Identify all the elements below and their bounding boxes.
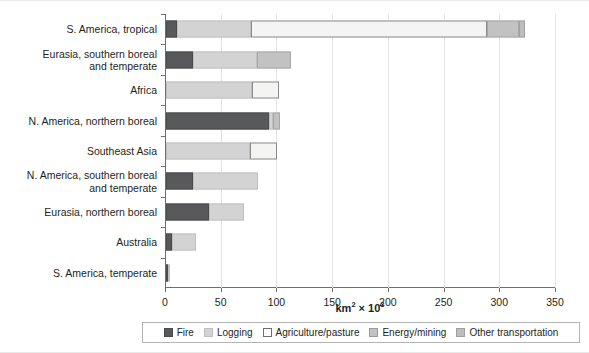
y-axis-tick [161,227,165,228]
swatch-fire-icon [164,328,173,337]
bar-segment-energy-mining[interactable] [487,21,519,38]
y-axis-tick [161,197,165,198]
legend-item[interactable]: Other transportation [456,327,558,338]
gridline [555,14,556,288]
bar-segment-logging[interactable] [193,173,259,190]
swatch-agriculture-icon [263,328,272,337]
bar-row[interactable]: Australia [165,227,555,257]
x-axis-title: km2 × 103 [165,300,555,314]
x-axis-title-mid: × 10 [356,302,381,314]
x-axis-tick [165,288,166,292]
stacked-bar[interactable] [166,82,279,99]
bar-segment-logging[interactable] [172,234,197,251]
bar-row[interactable]: Eurasia, southern borealand temperate [165,44,555,74]
legend-label: Energy/mining [382,327,446,338]
bar-segment-agriculture-pasture[interactable] [252,82,279,99]
bar-row[interactable]: Eurasia, northern boreal [165,197,555,227]
legend-label: Fire [177,327,194,338]
bar-segment-logging[interactable] [168,264,170,281]
bar-segment-fire[interactable] [166,112,269,129]
y-axis-tick [161,136,165,137]
bar-segment-logging[interactable] [166,142,250,159]
stacked-bar[interactable] [166,234,196,251]
y-axis-tick [161,105,165,106]
legend-label: Other transportation [469,327,558,338]
page-edge-top [0,0,589,1]
stacked-bar[interactable] [166,173,258,190]
bar-segment-logging[interactable] [193,51,258,68]
stacked-bar[interactable] [166,51,291,68]
bar-row[interactable]: Southeast Asia [165,136,555,166]
bar-row[interactable]: Africa [165,75,555,105]
chart-legend: FireLoggingAgriculture/pastureEnergy/min… [142,322,580,343]
y-axis-tick [161,258,165,259]
legend-item[interactable]: Logging [204,327,253,338]
x-axis-tick [221,288,222,292]
bar-row[interactable]: N. America, northern boreal [165,105,555,135]
legend-label: Agriculture/pasture [276,327,360,338]
y-axis-category-label: Australia [116,236,157,249]
swatch-logging-icon [204,328,213,337]
stacked-bar[interactable] [166,264,170,281]
y-axis-category-label: Africa [130,84,157,97]
stacked-bar[interactable] [166,21,525,38]
y-axis-category-label: Southeast Asia [87,145,157,158]
bar-segment-fire[interactable] [166,173,193,190]
swatch-transport-icon [456,328,465,337]
bar-segment-logging[interactable] [177,21,251,38]
y-axis-category-label: Eurasia, northern boreal [44,206,157,219]
y-axis-tick [161,14,165,15]
x-axis-title-exp-scale: 3 [380,300,384,309]
x-axis-tick [276,288,277,292]
bar-row[interactable]: S. America, temperate [165,258,555,288]
bar-segment-agriculture-pasture[interactable] [250,142,278,159]
y-axis-tick [161,166,165,167]
bar-row[interactable]: S. America, tropical [165,14,555,44]
y-axis-category-label: N. America, southern borealand temperate [27,169,157,194]
stacked-bar[interactable] [166,203,244,220]
stacked-bar[interactable] [166,112,280,129]
legend-item[interactable]: Fire [164,327,194,338]
bar-segment-energy-mining[interactable] [257,51,290,68]
swatch-energy-icon [369,328,378,337]
y-axis-category-label: S. America, temperate [53,267,157,280]
y-axis-tick [161,75,165,76]
legend-item[interactable]: Agriculture/pasture [263,327,360,338]
bar-segment-agriculture-pasture[interactable] [251,21,487,38]
bar-row[interactable]: N. America, southern borealand temperate [165,166,555,196]
y-axis-category-label: S. America, tropical [67,23,157,36]
x-axis-tick [499,288,500,292]
x-axis-tick [388,288,389,292]
x-axis-title-base: km [335,302,351,314]
bar-segment-logging[interactable] [166,82,252,99]
chart-figure: 050100150200250300350 S. America, tropic… [0,0,589,353]
bar-segment-fire[interactable] [166,51,193,68]
bar-segment-other-transportation[interactable] [519,21,525,38]
legend-item[interactable]: Energy/mining [369,327,446,338]
x-axis-tick [444,288,445,292]
stacked-bar[interactable] [166,142,277,159]
y-axis-tick [161,44,165,45]
plot-area: 050100150200250300350 S. America, tropic… [165,14,555,288]
y-axis-category-label: N. America, northern boreal [29,114,157,127]
y-axis-category-label: Eurasia, southern borealand temperate [43,47,157,72]
x-axis-tick [555,288,556,292]
bar-segment-energy-mining[interactable] [273,112,280,129]
x-axis-tick [332,288,333,292]
legend-label: Logging [217,327,253,338]
bar-segment-fire[interactable] [166,21,177,38]
bar-segment-fire[interactable] [166,203,209,220]
bar-segment-logging[interactable] [209,203,244,220]
